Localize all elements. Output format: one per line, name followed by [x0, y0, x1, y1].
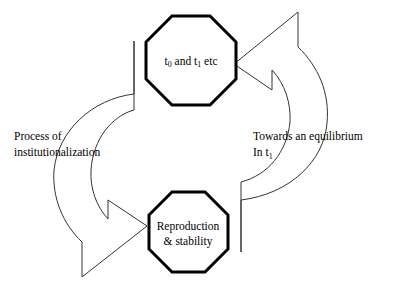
- label-left-line2: institutionalization: [14, 146, 100, 158]
- label-right-line1: Towards an equilibrium: [253, 130, 363, 143]
- node-top[interactable]: t0 and t1 etc: [146, 16, 236, 105]
- arrow-left-down-body: [54, 41, 147, 277]
- node-bottom-octagon[interactable]: [149, 192, 228, 272]
- label-right-line2-base: In t: [253, 146, 269, 158]
- label-left-line1: Process of: [14, 130, 62, 142]
- node-top-mid: and t: [172, 55, 198, 67]
- node-bottom-label-line2: & stability: [164, 235, 213, 248]
- label-right-line2-sub: 1: [269, 152, 273, 161]
- label-right-line2: In t1: [253, 146, 273, 161]
- node-bottom[interactable]: Reproduction & stability: [149, 192, 228, 272]
- diagram-canvas: t0 and t1 etc Reproduction & stability P…: [0, 0, 404, 290]
- node-bottom-label-line1: Reproduction: [157, 220, 220, 233]
- node-top-post: etc: [201, 55, 217, 67]
- arrow-left-down: [54, 41, 147, 277]
- cycle-diagram: t0 and t1 etc Reproduction & stability P…: [0, 0, 404, 290]
